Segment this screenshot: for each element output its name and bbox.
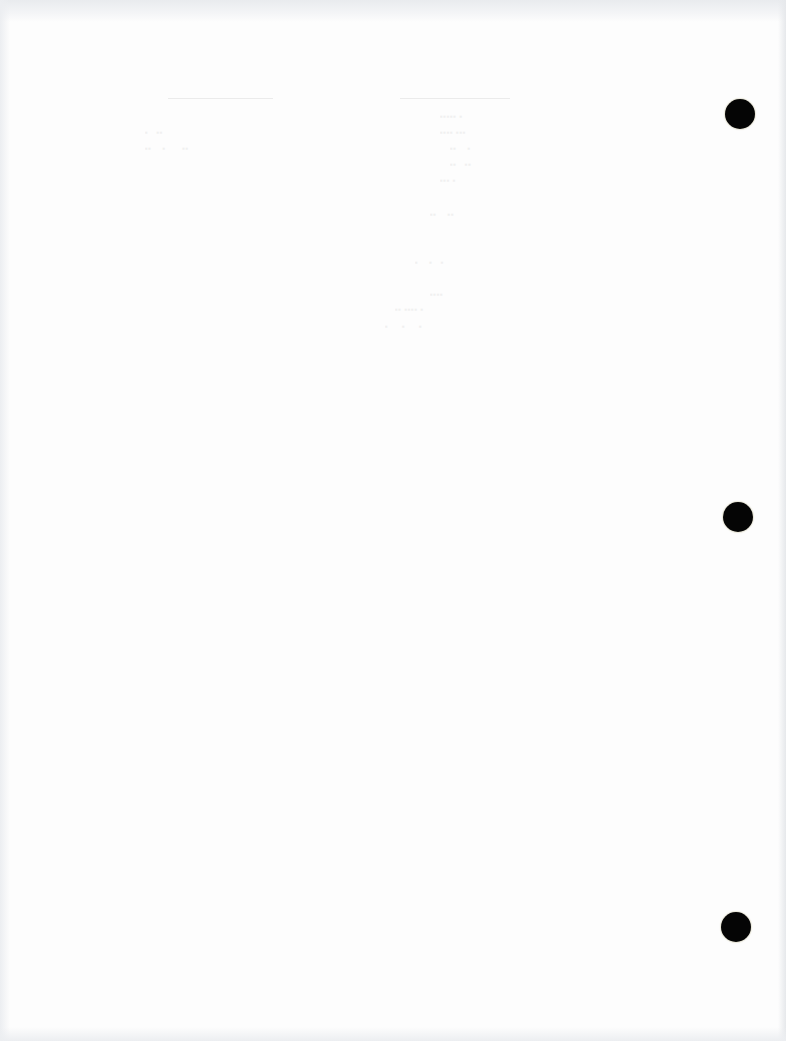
page-edge-left	[0, 0, 10, 1041]
page-edge-top	[0, 0, 786, 22]
bleed-through-mark: ▪▪ ▪	[450, 144, 471, 153]
scanned-page: ▪▪▪▪▪ ▪ ▪▪▪▪ ▪▪▪ ▪ ▪▪ ▪▪ ▪ ▪▪ ▪▪ ▪ ▪▪ ▪▪…	[0, 0, 786, 1041]
bleed-through-mark: ▪▪ ▪▪	[430, 210, 454, 219]
bleed-through-mark: ▪▪▪▪ ▪▪▪	[440, 128, 466, 137]
bleed-through-mark: ▪▪▪ ▪	[440, 176, 456, 185]
bleed-through-rule	[168, 98, 273, 99]
bleed-through-mark: ▪▪▪▪	[430, 290, 443, 299]
bleed-through-mark: ▪ ▪ ▪	[385, 322, 422, 331]
punch-hole-middle	[723, 502, 753, 532]
punch-hole-bottom	[721, 912, 751, 942]
bleed-through-rule	[400, 98, 510, 99]
bleed-through-mark: ▪ ▪ ▪	[415, 258, 444, 267]
bleed-through-mark: ▪▪ ▪ ▪▪	[145, 144, 189, 153]
page-edge-bottom	[0, 1027, 786, 1041]
bleed-through-mark: ▪ ▪▪	[145, 128, 163, 137]
bleed-through-mark: ▪▪▪▪▪ ▪	[440, 112, 463, 121]
page-edge-right	[778, 0, 786, 1041]
bleed-through-mark: ▪▪ ▪▪▪▪ ▪	[395, 305, 424, 314]
punch-hole-top	[725, 99, 755, 129]
bleed-through-mark: ▪▪ ▪▪	[450, 160, 472, 169]
